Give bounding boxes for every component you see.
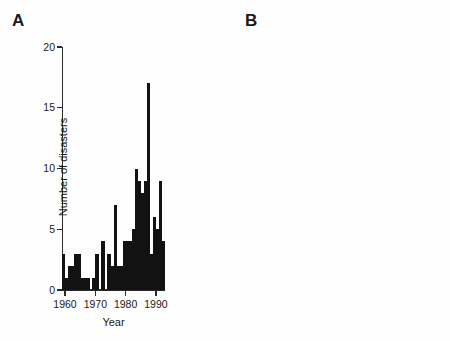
panel-a-bars (62, 47, 165, 290)
x-tick-mark (155, 290, 156, 296)
panel-a-letter: A (12, 12, 24, 29)
x-tick-label: 1970 (84, 299, 107, 310)
bar (86, 278, 89, 290)
y-tick-label: 15 (43, 103, 55, 114)
bar (95, 254, 98, 290)
panel-a-y-axis-label: Number of disasters (57, 117, 69, 215)
y-tick-label: 20 (43, 42, 55, 53)
y-tick-label: 0 (49, 285, 55, 296)
bar (162, 241, 165, 290)
panel-b-letter: B (245, 12, 257, 29)
x-tick-mark (64, 290, 65, 296)
figure-container: A 05101520 1960197019801990 Number of di… (0, 0, 450, 341)
bar (101, 241, 104, 290)
x-tick-label: 1960 (53, 299, 76, 310)
y-tick-label: 10 (43, 163, 55, 174)
panel-b: B 05101520253035 1960197019801990 Decada… (225, 0, 450, 341)
y-tick-label: 5 (49, 224, 55, 235)
panel-a-plot-area: 05101520 1960197019801990 Number of disa… (62, 47, 165, 290)
panel-a: A 05101520 1960197019801990 Number of di… (0, 0, 225, 341)
x-tick-mark (125, 290, 126, 296)
x-tick-label: 1980 (114, 299, 137, 310)
x-tick-mark (95, 290, 96, 296)
panel-a-x-axis-label: Year (102, 316, 124, 328)
x-tick-label: 1990 (144, 299, 167, 310)
